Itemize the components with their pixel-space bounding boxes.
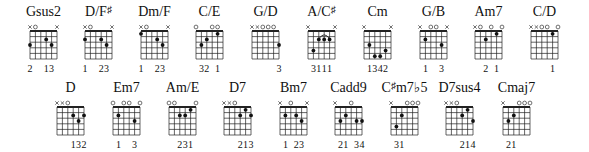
- fingering-numbers: 21: [500, 139, 534, 149]
- fingering-numbers: 132: [54, 139, 88, 149]
- fingering-numbers: 2134: [332, 139, 366, 149]
- fretboard-grid: [250, 23, 281, 65]
- finger-number: 2: [203, 63, 211, 74]
- finger-dot: [77, 119, 81, 123]
- muted-string-icon: [306, 25, 309, 28]
- muted-string-icon: [418, 25, 421, 28]
- open-string-icon: [528, 101, 532, 105]
- open-string-icon: [556, 25, 560, 29]
- open-string-icon: [194, 101, 198, 105]
- fingering-numbers: 1: [528, 63, 562, 73]
- finger-number: 2: [382, 63, 390, 74]
- open-string-icon: [416, 101, 420, 105]
- fretboard-grid: [139, 23, 170, 65]
- fingering-numbers: 123: [82, 63, 116, 73]
- fretboard-grid: [473, 23, 504, 65]
- fretboard-grid: [418, 23, 449, 65]
- finger-dot: [200, 43, 204, 47]
- open-string-icon: [194, 25, 198, 29]
- finger-number: 1: [187, 139, 195, 150]
- open-string-icon: [111, 101, 115, 105]
- open-string-icon: [216, 25, 220, 29]
- finger-number: 3: [159, 63, 167, 74]
- finger-dot: [551, 32, 555, 36]
- finger-number: 1: [493, 63, 501, 74]
- muted-string-icon: [333, 25, 336, 28]
- finger-number: 1: [114, 139, 122, 150]
- open-string-icon: [411, 101, 415, 105]
- fretboard-grid: [111, 99, 142, 141]
- open-string-icon: [272, 25, 276, 29]
- finger-dot: [28, 43, 32, 47]
- finger-number: 1: [549, 63, 557, 74]
- fretboard-grid: [306, 23, 337, 65]
- fretboard-grid: [333, 99, 364, 141]
- open-string-icon: [455, 101, 459, 105]
- finger-dot: [400, 114, 404, 118]
- muted-string-icon: [333, 101, 336, 104]
- finger-dot: [205, 38, 209, 42]
- finger-number: 1: [81, 63, 89, 74]
- open-string-icon: [89, 25, 93, 29]
- open-string-icon: [167, 101, 171, 105]
- muted-string-icon: [278, 101, 281, 104]
- muted-string-icon: [450, 101, 453, 104]
- open-string-icon: [405, 101, 409, 105]
- finger-number: 1: [421, 63, 429, 74]
- fingering-numbers: 1342: [361, 63, 395, 73]
- open-string-icon: [233, 101, 237, 105]
- finger-dot: [216, 32, 220, 36]
- finger-number: 3: [48, 63, 56, 74]
- fingering-numbers: 123: [277, 139, 311, 149]
- fingering-numbers: 31: [388, 139, 422, 149]
- finger-dot: [471, 119, 475, 123]
- open-string-icon: [66, 101, 70, 105]
- chord-name: Cmaj7: [477, 80, 557, 96]
- finger-dot: [105, 43, 109, 47]
- finger-dot: [139, 32, 143, 36]
- finger-dot: [317, 38, 321, 42]
- open-string-icon: [429, 25, 433, 29]
- finger-dot: [360, 119, 364, 123]
- muted-string-icon: [139, 25, 142, 28]
- fingering-numbers: 21: [472, 63, 506, 73]
- fingering-numbers: 3: [249, 63, 283, 73]
- sharp-symbol: ♯: [331, 4, 336, 15]
- finger-dot: [484, 38, 488, 42]
- fretboard-grid: [194, 23, 225, 65]
- muted-string-icon: [362, 25, 365, 28]
- finger-dot: [378, 54, 382, 58]
- finger-dot: [189, 108, 193, 112]
- finger-number: 3: [247, 139, 255, 150]
- open-string-icon: [349, 101, 353, 105]
- fretboard-grid: [529, 23, 560, 65]
- muted-string-icon: [445, 25, 448, 28]
- fingering-numbers: 214: [443, 139, 477, 149]
- muted-string-icon: [389, 25, 392, 28]
- muted-string-icon: [55, 101, 58, 104]
- muted-string-icon: [444, 101, 447, 104]
- open-string-icon: [545, 25, 549, 29]
- finger-dot: [322, 38, 326, 42]
- muted-string-icon: [228, 101, 231, 104]
- finger-number: 3: [298, 139, 306, 150]
- fretboard-grid: [501, 99, 532, 141]
- finger-dot: [249, 114, 253, 118]
- finger-dot: [83, 38, 87, 42]
- finger-dot: [161, 43, 165, 47]
- finger-dot: [178, 114, 182, 118]
- muted-string-icon: [529, 25, 532, 28]
- finger-dot: [117, 114, 121, 118]
- fingering-numbers: 123: [138, 63, 172, 73]
- open-string-icon: [127, 101, 131, 105]
- muted-string-icon: [389, 101, 392, 104]
- open-string-icon: [210, 25, 214, 29]
- muted-string-icon: [61, 101, 64, 104]
- muted-string-icon: [256, 25, 259, 28]
- finger-dot: [466, 108, 470, 112]
- finger-dot: [424, 38, 428, 42]
- open-string-icon: [517, 101, 521, 105]
- open-string-icon: [122, 101, 126, 105]
- finger-number: 1: [214, 63, 222, 74]
- finger-dot: [355, 119, 359, 123]
